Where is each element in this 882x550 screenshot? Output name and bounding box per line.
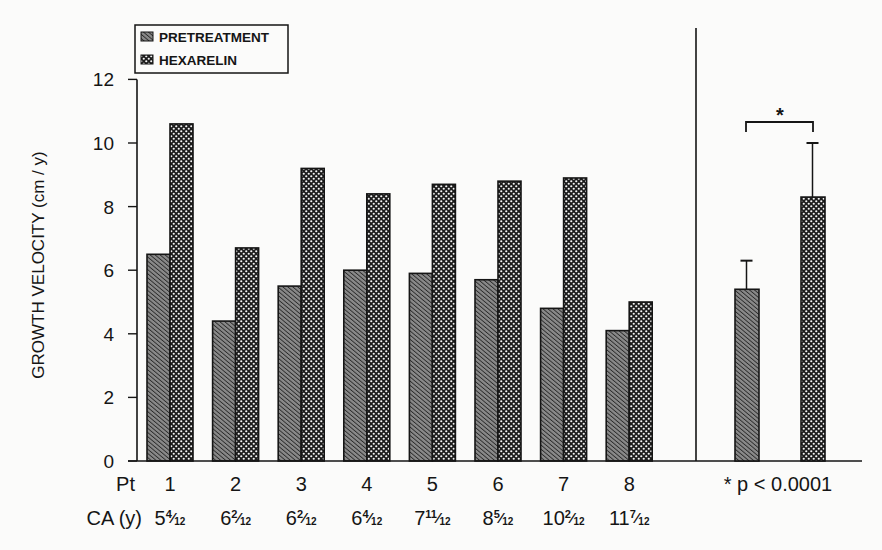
legend-label-hexarelin: HEXARELIN — [159, 53, 237, 68]
y-tick-label: 12 — [93, 69, 114, 90]
legend-swatch-hexarelin-icon — [141, 55, 153, 64]
patient-number-label: 7 — [558, 473, 569, 495]
y-tick-label: 8 — [103, 197, 114, 218]
bar-pretreatment-patient-8 — [606, 331, 629, 461]
bar-pretreatment-patient-7 — [541, 308, 564, 461]
bar-hexarelin-patient-2 — [236, 248, 259, 461]
chronological-age-label: 117⁄12 — [609, 507, 650, 529]
y-tick-label: 6 — [103, 260, 114, 281]
bar-hexarelin-patient-6 — [498, 181, 521, 461]
age-row-label: CA (y) — [86, 507, 142, 529]
bar-group-patient-7 — [541, 178, 587, 461]
legend-label-pretreatment: PRETREATMENT — [159, 30, 270, 45]
legend-swatch-pretreatment-icon — [141, 32, 153, 41]
summary-bar-pretreatment — [735, 289, 759, 461]
patient-row-label: Pt — [116, 473, 135, 495]
bar-hexarelin-patient-5 — [432, 184, 455, 461]
patient-number-label: 6 — [492, 473, 503, 495]
y-tick-label: 0 — [103, 451, 114, 472]
chronological-age-label: 62⁄12 — [286, 507, 317, 529]
bar-hexarelin-patient-3 — [301, 168, 324, 461]
bar-pretreatment-patient-1 — [147, 254, 170, 461]
patient-number-label: 1 — [164, 473, 175, 495]
patient-number-label: 5 — [427, 473, 438, 495]
patient-number-label: 4 — [361, 473, 372, 495]
summary-bar-hexarelin — [801, 197, 825, 461]
chronological-age-label: 85⁄12 — [483, 507, 514, 529]
patient-number-label: 8 — [624, 473, 635, 495]
bar-hexarelin-patient-1 — [170, 124, 193, 461]
bar-hexarelin-patient-4 — [367, 194, 390, 461]
legend: PRETREATMENT HEXARELIN — [135, 25, 288, 73]
bar-pretreatment-patient-2 — [213, 321, 236, 461]
y-tick-label: 10 — [93, 133, 114, 154]
bar-groups — [147, 124, 652, 461]
y-axis: 024681012 — [93, 69, 137, 472]
growth-velocity-chart: PRETREATMENT HEXARELIN 024681012 GROWTH … — [0, 0, 882, 550]
y-axis-title: GROWTH VELOCITY (cm / y) — [29, 151, 48, 378]
bar-group-patient-3 — [278, 168, 324, 461]
bar-hexarelin-patient-7 — [564, 178, 587, 461]
bar-pretreatment-patient-4 — [344, 270, 367, 461]
category-labels: 154⁄12262⁄12362⁄12464⁄125711⁄12685⁄12710… — [155, 473, 650, 529]
chronological-age-label: 102⁄12 — [543, 507, 585, 529]
bar-group-patient-4 — [344, 194, 390, 461]
significance-star-icon: * — [776, 104, 784, 126]
chronological-age-label: 54⁄12 — [155, 507, 186, 529]
bar-group-patient-8 — [606, 302, 652, 461]
chronological-age-label: 64⁄12 — [351, 507, 382, 529]
chronological-age-label: 711⁄12 — [414, 507, 451, 529]
bar-group-patient-6 — [475, 181, 521, 461]
patient-number-label: 3 — [296, 473, 307, 495]
y-tick-label: 4 — [103, 324, 114, 345]
significance-note: * p < 0.0001 — [724, 473, 832, 495]
summary-panel: * — [735, 104, 825, 461]
bar-pretreatment-patient-3 — [278, 286, 301, 461]
bar-group-patient-5 — [409, 184, 455, 461]
patient-number-label: 2 — [230, 473, 241, 495]
bar-pretreatment-patient-6 — [475, 280, 498, 461]
y-tick-label: 2 — [103, 387, 114, 408]
chronological-age-label: 62⁄12 — [220, 507, 251, 529]
bar-pretreatment-patient-5 — [409, 273, 432, 461]
bar-hexarelin-patient-8 — [629, 302, 652, 461]
bar-group-patient-2 — [213, 248, 259, 461]
bar-group-patient-1 — [147, 124, 193, 461]
